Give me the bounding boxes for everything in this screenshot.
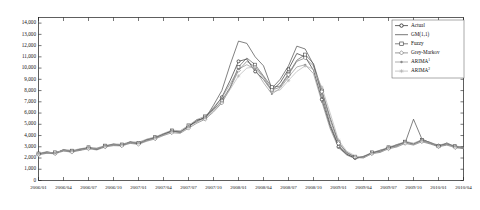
y-tick-label: 2,000 xyxy=(24,154,36,160)
data-point-marker xyxy=(370,152,374,156)
x-tick-label: 2008/04 xyxy=(255,185,272,190)
y-tick-label: 4,000 xyxy=(24,132,36,138)
data-point-marker xyxy=(70,149,74,153)
data-point-marker xyxy=(353,154,357,158)
y-axis-tick-labels: 01,0002,0003,0004,0005,0006,0007,0008,00… xyxy=(22,19,37,182)
data-point-marker xyxy=(321,101,323,103)
data-point-marker xyxy=(120,143,124,147)
data-point-marker xyxy=(303,64,307,68)
data-point-marker xyxy=(403,141,407,145)
data-point-marker xyxy=(170,130,174,134)
data-point-marker xyxy=(387,146,391,150)
legend-label: Grey-Markov xyxy=(411,49,440,55)
y-tick-label: 6,000 xyxy=(24,109,36,115)
data-point-marker xyxy=(87,146,91,150)
data-point-marker xyxy=(153,136,157,140)
legend: ActualGM(1,1)FuzzyGrey-MarkovARIMA1ARIMA… xyxy=(392,20,464,78)
x-tick-label: 2009/04 xyxy=(355,185,372,190)
data-point-marker xyxy=(320,98,323,101)
x-tick-label: 2009/01 xyxy=(330,185,347,190)
y-tick-label: 3,000 xyxy=(24,143,36,149)
data-point-marker xyxy=(437,144,441,148)
y-tick-label: 7,000 xyxy=(24,98,36,104)
data-point-marker xyxy=(420,139,424,143)
data-point-marker xyxy=(354,158,356,160)
x-tick-label: 2008/01 xyxy=(230,185,247,190)
legend-label: ARIMA2 xyxy=(411,67,430,73)
data-point-marker xyxy=(221,97,223,99)
x-tick-label: 2008/10 xyxy=(305,185,322,190)
y-tick-label: 13,000 xyxy=(22,31,37,37)
x-axis-tick-labels: 2006/012006/042006/072006/102007/012007/… xyxy=(30,185,472,190)
legend-label: ARIMA1 xyxy=(411,58,430,64)
data-point-marker xyxy=(220,100,224,104)
data-point-marker xyxy=(253,65,257,69)
y-tick-label: 1,000 xyxy=(24,165,36,171)
chart-figure: 01,0002,0003,0004,0005,0006,0007,0008,00… xyxy=(0,0,480,210)
data-point-marker xyxy=(187,126,191,130)
legend-label: Fuzzy xyxy=(411,40,424,46)
y-tick-label: 12,000 xyxy=(22,42,37,48)
x-tick-label: 2006/04 xyxy=(55,185,72,190)
x-tick-label: 2006/07 xyxy=(80,185,97,190)
x-tick-label: 2010/01 xyxy=(430,185,447,190)
data-point-marker xyxy=(288,76,290,78)
x-tick-label: 2008/07 xyxy=(280,185,297,190)
data-point-marker xyxy=(103,145,107,149)
legend-label: GM(1,1) xyxy=(411,31,430,38)
data-point-marker xyxy=(203,117,207,121)
x-tick-label: 2009/10 xyxy=(405,185,422,190)
data-point-marker xyxy=(320,85,324,89)
data-point-marker xyxy=(254,70,257,73)
x-tick-label: 2006/10 xyxy=(105,185,122,190)
x-tick-label: 2006/01 xyxy=(30,185,47,190)
legend-label: Actual xyxy=(411,22,425,28)
y-tick-label: 8,000 xyxy=(24,87,36,93)
data-point-marker xyxy=(237,74,241,78)
data-point-marker xyxy=(287,68,290,71)
x-tick-label: 2009/07 xyxy=(380,185,397,190)
y-tick-label: 14,000 xyxy=(22,19,37,25)
data-point-marker xyxy=(137,141,141,145)
line-chart: 01,0002,0003,0004,0005,0006,0007,0008,00… xyxy=(0,0,480,210)
x-tick-label: 2007/04 xyxy=(155,185,172,190)
data-point-marker xyxy=(453,145,457,149)
x-tick-label: 2007/01 xyxy=(130,185,147,190)
y-tick-label: 11,000 xyxy=(22,53,36,59)
x-tick-label: 2007/07 xyxy=(180,185,197,190)
data-point-marker xyxy=(338,147,340,149)
data-point-marker xyxy=(53,151,57,155)
x-tick-label: 2010/04 xyxy=(455,185,472,190)
y-tick-label: 10,000 xyxy=(22,64,37,70)
data-point-marker xyxy=(270,90,274,94)
y-tick-label: 5,000 xyxy=(24,120,36,126)
data-point-marker xyxy=(337,138,341,142)
data-point-marker xyxy=(237,60,240,63)
y-tick-label: 9,000 xyxy=(24,76,36,82)
data-point-marker xyxy=(37,153,41,157)
data-point-marker xyxy=(287,79,291,83)
data-point-marker xyxy=(238,68,240,70)
x-tick-label: 2007/10 xyxy=(205,185,222,190)
y-tick-label: 0 xyxy=(33,177,36,183)
